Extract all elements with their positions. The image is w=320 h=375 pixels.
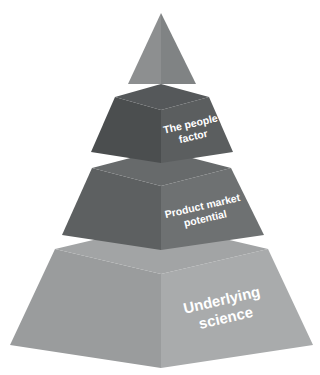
pyramid-tier-product-market-potential[interactable]: Product market potential: [62, 150, 264, 250]
tier-1-right-face: [161, 13, 196, 84]
pyramid-tier-apex[interactable]: [128, 13, 196, 84]
pyramid-diagram: Underlying science Product market potent…: [0, 0, 320, 375]
pyramid-svg-canvas: Underlying science Product market potent…: [0, 0, 320, 375]
pyramid-tier-the-people-factor[interactable]: The people factor: [91, 84, 233, 163]
tier-1-left-face: [128, 13, 161, 84]
